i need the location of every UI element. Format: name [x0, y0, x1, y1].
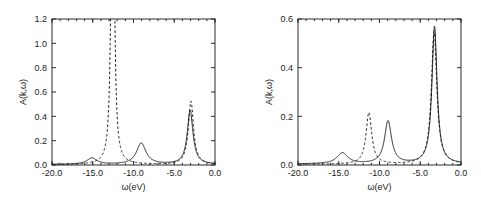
x-tick-label: -15.0: [328, 168, 349, 178]
x-tick-label: -10.0: [123, 168, 144, 178]
x-tick-label: 0.0: [209, 168, 222, 178]
plot-frame: [298, 19, 461, 165]
data-curve-dashed: [52, 1, 215, 164]
y-tick-label: 0.8: [34, 63, 47, 73]
x-tick-label: -5.0: [412, 168, 428, 178]
curve-group: [298, 26, 461, 164]
y-tick-label: 0.6: [34, 87, 47, 97]
y-tick-label: 1.0: [34, 39, 47, 49]
data-curve-dashed: [298, 32, 461, 165]
y-tick-label: 0.0: [280, 160, 293, 170]
x-tick-label: -10.0: [369, 168, 390, 178]
data-curve-solid: [298, 26, 461, 163]
y-tick-label: 0.4: [280, 63, 293, 73]
y-tick-label: 0.0: [34, 160, 47, 170]
chart-right-svg: -20.0-15.0-10.0-5.00.00.00.20.40.6ω(eV)A…: [240, 0, 481, 203]
spectral-function-figure: -20.0-15.0-10.0-5.00.00.00.20.40.60.81.0…: [0, 0, 481, 203]
chart-left-svg: -20.0-15.0-10.0-5.00.00.00.20.40.60.81.0…: [0, 0, 240, 203]
x-tick-label: -15.0: [82, 168, 103, 178]
y-axis-title: A(k,ω): [18, 79, 28, 105]
x-tick-label: -5.0: [166, 168, 182, 178]
y-tick-label: 0.4: [34, 112, 47, 122]
y-tick-label: 1.2: [34, 14, 47, 24]
y-axis-title: A(k,ω): [264, 79, 274, 105]
curve-group: [52, 1, 215, 164]
chart-panel-left: -20.0-15.0-10.0-5.00.00.00.20.40.60.81.0…: [0, 0, 240, 203]
y-tick-label: 0.2: [280, 112, 293, 122]
y-tick-label: 0.2: [34, 136, 47, 146]
x-tick-label: 0.0: [455, 168, 468, 178]
x-axis-title: ω(eV): [367, 182, 391, 192]
plot-frame: [52, 19, 215, 165]
x-axis-title: ω(eV): [121, 182, 145, 192]
data-curve-solid: [52, 110, 215, 164]
chart-panel-right: -20.0-15.0-10.0-5.00.00.00.20.40.6ω(eV)A…: [240, 0, 480, 203]
y-tick-label: 0.6: [280, 14, 293, 24]
